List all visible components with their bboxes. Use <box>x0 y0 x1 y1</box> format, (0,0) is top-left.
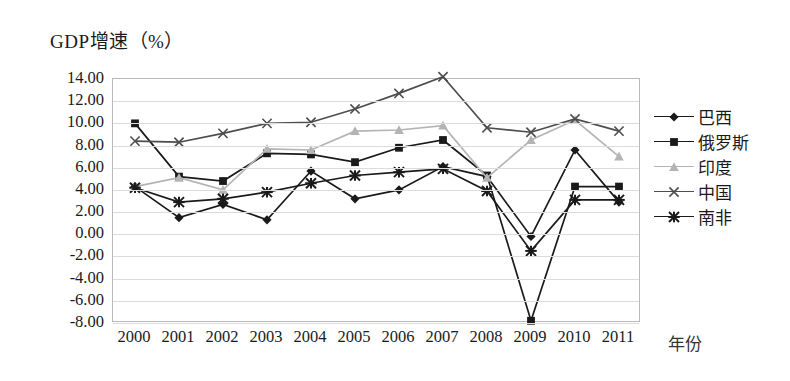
x-tick-label: 2006 <box>382 329 415 346</box>
legend-item[interactable]: 印度 <box>652 154 786 179</box>
y-tick-label: -6.00 <box>44 292 104 309</box>
legend-triangle-icon <box>652 157 696 177</box>
plot-area <box>112 78 640 322</box>
data-point-marker <box>129 182 141 193</box>
y-tick-label: 4.00 <box>44 181 104 198</box>
y-tick-label: 6.00 <box>44 159 104 176</box>
x-tick-label: 2009 <box>514 329 547 346</box>
y-tick-label: -2.00 <box>44 247 104 264</box>
gridline <box>113 301 639 302</box>
gridline <box>113 101 639 102</box>
gridline <box>113 146 639 147</box>
series-square <box>131 119 623 324</box>
legend-label: 南非 <box>698 204 732 229</box>
x-axis-tick-labels: 2000200120022003200420052006200720082009… <box>112 329 640 355</box>
x-tick-label: 2000 <box>118 329 151 346</box>
y-tick-label: 12.00 <box>44 92 104 109</box>
y-tick-label: -4.00 <box>44 270 104 287</box>
gridline <box>113 279 639 280</box>
x-axis-title: 年份 <box>668 330 702 355</box>
x-tick-label: 2001 <box>162 329 195 346</box>
x-tick-label: 2004 <box>294 329 327 346</box>
series-diamond <box>130 145 623 241</box>
legend-item[interactable]: 南非 <box>652 204 786 229</box>
gridline <box>113 323 639 324</box>
y-tick-label: 0.00 <box>44 225 104 242</box>
data-point-marker <box>569 195 581 206</box>
data-point-marker <box>173 197 185 207</box>
series-cross <box>130 72 623 147</box>
data-point-marker <box>349 170 361 181</box>
gridline <box>113 190 639 191</box>
y-tick-label: 2.00 <box>44 203 104 220</box>
data-point-marker <box>668 211 680 222</box>
data-point-marker <box>438 72 447 81</box>
data-point-marker <box>437 164 449 175</box>
data-point-marker <box>669 187 678 196</box>
data-point-marker <box>350 194 359 203</box>
chart-root: GDP增速（%） 14.0012.0010.008.006.004.002.00… <box>0 0 790 381</box>
legend-item[interactable]: 巴西 <box>652 104 786 129</box>
data-point-marker <box>525 246 537 257</box>
data-point-marker <box>261 187 273 198</box>
y-tick-label: 10.00 <box>44 114 104 131</box>
x-tick-label: 2007 <box>426 329 459 346</box>
series-canvas <box>113 79 641 323</box>
y-tick-label: 14.00 <box>44 70 104 87</box>
legend-square-icon <box>652 132 696 152</box>
y-tick-label: 8.00 <box>44 137 104 154</box>
x-tick-label: 2010 <box>558 329 591 346</box>
gridline <box>113 168 639 169</box>
legend-label: 俄罗斯 <box>698 129 749 154</box>
legend-item[interactable]: 中国 <box>652 179 786 204</box>
x-tick-label: 2002 <box>206 329 239 346</box>
gridline <box>113 234 639 235</box>
series-line <box>135 150 619 237</box>
legend-asterisk-icon <box>652 207 696 227</box>
gridline <box>113 256 639 257</box>
y-axis-tick-labels: 14.0012.0010.008.006.004.002.000.00-2.00… <box>40 78 104 322</box>
legend-item[interactable]: 俄罗斯 <box>652 129 786 154</box>
y-tick-label: -8.00 <box>44 314 104 331</box>
data-point-marker <box>351 158 359 166</box>
legend-label: 印度 <box>698 154 732 179</box>
data-point-marker <box>217 194 229 205</box>
gridline <box>113 212 639 213</box>
data-point-marker <box>439 136 447 144</box>
x-tick-label: 2011 <box>602 329 634 346</box>
legend-label: 巴西 <box>698 104 732 129</box>
data-point-marker <box>394 89 403 98</box>
legend-cross-icon <box>652 182 696 202</box>
x-tick-label: 2008 <box>470 329 503 346</box>
legend-diamond-icon <box>652 107 696 127</box>
data-point-marker <box>614 127 623 136</box>
data-point-marker <box>481 186 493 197</box>
gridline <box>113 123 639 124</box>
x-tick-label: 2003 <box>250 329 283 346</box>
data-point-marker <box>219 177 227 185</box>
data-point-marker <box>305 178 317 189</box>
data-point-marker <box>670 138 678 146</box>
legend-label: 中国 <box>698 179 732 204</box>
data-point-marker <box>669 162 679 171</box>
x-tick-label: 2005 <box>338 329 371 346</box>
data-point-marker <box>613 195 625 206</box>
data-point-marker <box>350 104 359 113</box>
series-line <box>135 123 619 320</box>
data-point-marker <box>669 112 678 121</box>
chart-title: GDP增速（%） <box>50 26 184 53</box>
legend: 巴西俄罗斯印度中国南非 <box>652 104 786 229</box>
